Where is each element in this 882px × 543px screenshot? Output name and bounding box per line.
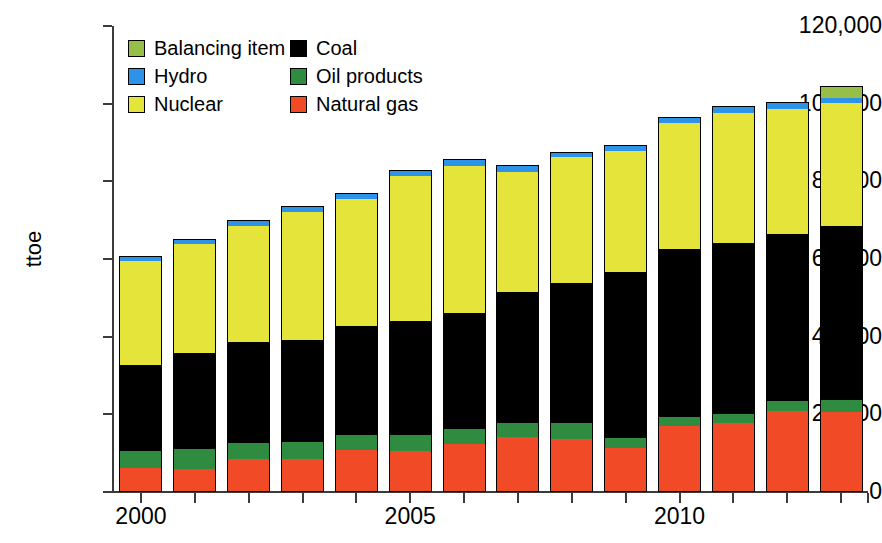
bar-2013[interactable] [820, 26, 863, 492]
bar-segment-oil-products[interactable] [335, 435, 378, 451]
bar-segment-hydro[interactable] [389, 171, 432, 176]
bar-2010[interactable] [658, 26, 701, 492]
bar-segment-natural-gas[interactable] [227, 459, 270, 492]
bar-segment-natural-gas[interactable] [119, 468, 162, 492]
bar-segment-coal[interactable] [389, 321, 432, 435]
bar-segment-nuclear[interactable] [496, 172, 539, 292]
legend-item-coal[interactable]: Coal [290, 34, 423, 62]
bar-segment-oil-products[interactable] [389, 435, 432, 451]
bar-segment-oil-products[interactable] [496, 423, 539, 437]
legend-item-balancing-item[interactable]: Balancing item [128, 34, 285, 62]
bar-segment-balancing-item[interactable] [820, 87, 863, 98]
bar-segment-nuclear[interactable] [443, 166, 486, 312]
bar-2009[interactable] [604, 26, 647, 492]
bar-segment-natural-gas[interactable] [550, 439, 593, 492]
bar-segment-natural-gas[interactable] [173, 469, 216, 492]
bar-segment-oil-products[interactable] [712, 414, 755, 423]
bar-segment-hydro[interactable] [227, 221, 270, 226]
bar-segment-hydro[interactable] [550, 153, 593, 158]
bar-segment-oil-products[interactable] [173, 449, 216, 468]
bar-segment-coal[interactable] [496, 292, 539, 422]
bar-segment-nuclear[interactable] [766, 109, 809, 234]
legend-item-hydro[interactable]: Hydro [128, 62, 285, 90]
bar-segment-nuclear[interactable] [550, 157, 593, 283]
bar-segment-hydro[interactable] [119, 257, 162, 262]
bar-2011[interactable] [712, 26, 755, 492]
bar-segment-coal[interactable] [604, 272, 647, 438]
y-tick-mark [103, 103, 112, 105]
bar-segment-natural-gas[interactable] [281, 459, 324, 492]
bar-segment-coal[interactable] [335, 326, 378, 435]
bar-segment-nuclear[interactable] [173, 244, 216, 353]
bar-segment-hydro[interactable] [604, 146, 647, 151]
bar-segment-natural-gas[interactable] [443, 444, 486, 492]
bar-segment-coal[interactable] [820, 226, 863, 400]
bar-segment-coal[interactable] [227, 342, 270, 443]
bar-segment-oil-products[interactable] [604, 438, 647, 447]
bar-top-outline [496, 165, 539, 166]
bar-segment-coal[interactable] [658, 249, 701, 418]
bar-segment-nuclear[interactable] [389, 176, 432, 320]
bar-segment-nuclear[interactable] [335, 199, 378, 326]
bar-segment-oil-products[interactable] [550, 423, 593, 439]
bar-segment-nuclear[interactable] [658, 123, 701, 248]
legend-swatch-icon [128, 96, 145, 113]
x-tick-label: 2005 [385, 503, 436, 530]
x-tick-mark [355, 493, 357, 503]
x-tick-mark [867, 493, 869, 503]
bar-2012[interactable] [766, 26, 809, 492]
bar-segment-coal[interactable] [712, 243, 755, 414]
legend-label: Balancing item [154, 38, 285, 58]
bar-segment-coal[interactable] [550, 283, 593, 423]
bar-segment-oil-products[interactable] [281, 442, 324, 459]
bar-segment-hydro[interactable] [496, 166, 539, 172]
bar-segment-natural-gas[interactable] [604, 448, 647, 492]
bar-segment-coal[interactable] [119, 365, 162, 450]
bar-segment-nuclear[interactable] [604, 151, 647, 272]
bar-segment-oil-products[interactable] [443, 429, 486, 444]
bar-segment-natural-gas[interactable] [389, 451, 432, 492]
y-tick-mark [103, 336, 112, 338]
y-tick-mark [103, 258, 112, 260]
bar-segment-nuclear[interactable] [712, 113, 755, 243]
bar-segment-natural-gas[interactable] [820, 412, 863, 492]
bar-segment-hydro[interactable] [712, 107, 755, 112]
bar-segment-oil-products[interactable] [227, 443, 270, 460]
legend-swatch-icon [290, 40, 307, 57]
bar-segment-hydro[interactable] [766, 103, 809, 109]
bar-segment-natural-gas[interactable] [712, 423, 755, 493]
x-tick-mark [302, 493, 304, 503]
bar-segment-nuclear[interactable] [281, 212, 324, 340]
bar-segment-hydro[interactable] [281, 207, 324, 212]
bar-segment-hydro[interactable] [820, 98, 863, 103]
bar-segment-oil-products[interactable] [766, 401, 809, 411]
bar-segment-natural-gas[interactable] [496, 437, 539, 492]
bar-segment-oil-products[interactable] [658, 417, 701, 426]
y-tick-mark [103, 413, 112, 415]
legend-label: Natural gas [316, 94, 418, 114]
bar-segment-nuclear[interactable] [820, 103, 863, 226]
bar-segment-natural-gas[interactable] [335, 450, 378, 492]
bar-top-outline [335, 193, 378, 194]
bar-segment-coal[interactable] [443, 313, 486, 430]
bar-segment-oil-products[interactable] [820, 400, 863, 412]
legend-item-oil-products[interactable]: Oil products [290, 62, 423, 90]
bar-2007[interactable] [496, 26, 539, 492]
x-tick-label: 2000 [115, 503, 166, 530]
legend-item-nuclear[interactable]: Nuclear [128, 90, 285, 118]
bar-segment-coal[interactable] [766, 234, 809, 401]
bar-segment-natural-gas[interactable] [658, 426, 701, 492]
bar-segment-natural-gas[interactable] [766, 411, 809, 492]
bar-segment-hydro[interactable] [658, 118, 701, 123]
bar-segment-hydro[interactable] [443, 160, 486, 166]
bar-segment-coal[interactable] [281, 340, 324, 443]
x-tick-mark [463, 493, 465, 503]
legend-item-natural-gas[interactable]: Natural gas [290, 90, 423, 118]
bar-2008[interactable] [550, 26, 593, 492]
bar-segment-hydro[interactable] [173, 240, 216, 244]
bar-segment-oil-products[interactable] [119, 451, 162, 468]
bar-segment-coal[interactable] [173, 353, 216, 449]
bar-segment-nuclear[interactable] [227, 226, 270, 342]
bar-segment-nuclear[interactable] [119, 261, 162, 365]
bar-segment-hydro[interactable] [335, 194, 378, 199]
